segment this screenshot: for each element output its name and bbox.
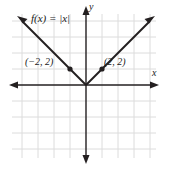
graph-canvas xyxy=(0,0,169,170)
point-label-negative-2-2: (−2, 2) xyxy=(25,57,53,67)
x-axis-left-arrowhead xyxy=(9,82,18,89)
x-axis-label: x xyxy=(152,68,156,78)
point-marker-negative-2-2 xyxy=(67,66,72,71)
function-equation-label: f(x) = |x| xyxy=(31,13,70,24)
y-axis-label: y xyxy=(89,2,93,12)
x-axis-right-arrowhead xyxy=(150,82,159,89)
y-axis-bottom-arrowhead xyxy=(83,155,90,164)
absolute-value-function-graph: f(x) = |x| (−2, 2) (2, 2) x y xyxy=(0,0,169,170)
point-marker-2-2 xyxy=(99,66,104,71)
point-label-2-2: (2, 2) xyxy=(104,57,126,67)
